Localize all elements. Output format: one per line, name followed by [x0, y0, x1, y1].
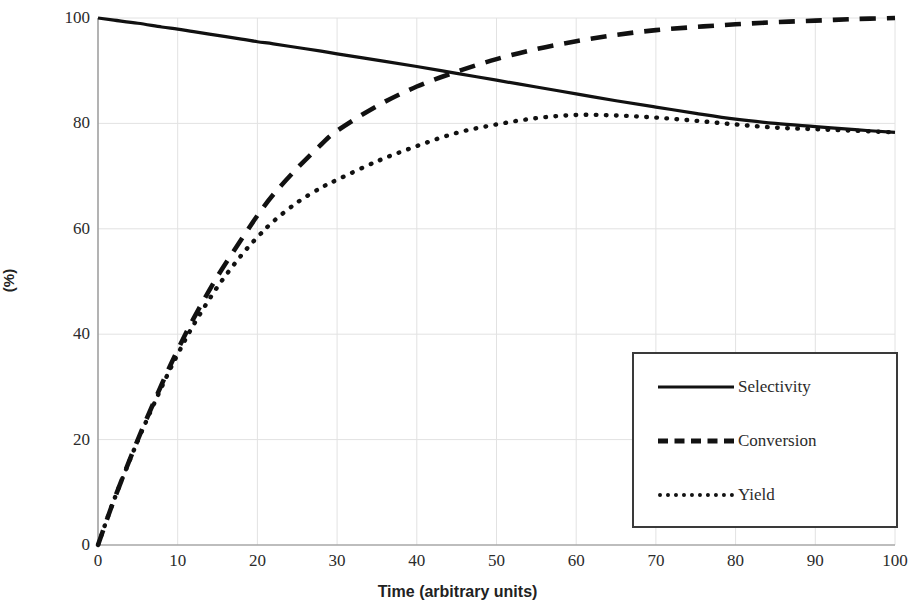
legend-label-selectivity: Selectivity — [738, 377, 811, 397]
legend-item-selectivity[interactable]: Selectivity — [634, 372, 900, 402]
x-tick-label: 40 — [387, 551, 447, 571]
chart-container: 020406080100 0102030405060708090100 (%) … — [0, 0, 915, 608]
x-axis-title: Time (arbitrary units) — [0, 583, 915, 601]
x-tick-label: 10 — [148, 551, 208, 571]
legend-label-conversion: Conversion — [738, 431, 816, 451]
dotted-line-icon — [654, 485, 738, 505]
x-tick-label: 90 — [785, 551, 845, 571]
legend: Selectivity Conversion Yield — [632, 352, 898, 528]
y-tick-label: 20 — [42, 430, 90, 450]
x-tick-label: 20 — [227, 551, 287, 571]
legend-label-yield: Yield — [738, 485, 775, 505]
x-tick-label: 60 — [546, 551, 606, 571]
y-tick-label: 100 — [42, 8, 90, 28]
x-tick-label: 0 — [68, 551, 128, 571]
x-tick-label: 30 — [307, 551, 367, 571]
y-axis-tick-labels: 020406080100 — [34, 0, 90, 608]
legend-item-conversion[interactable]: Conversion — [634, 426, 900, 456]
x-tick-label: 100 — [865, 551, 915, 571]
y-tick-label: 60 — [42, 219, 90, 239]
legend-item-yield[interactable]: Yield — [634, 480, 900, 510]
y-axis-title: (%) — [0, 251, 17, 311]
x-tick-label: 50 — [467, 551, 527, 571]
dashed-line-icon — [654, 431, 738, 451]
x-tick-label: 80 — [706, 551, 766, 571]
y-tick-label: 40 — [42, 324, 90, 344]
y-tick-label: 80 — [42, 113, 90, 133]
x-tick-label: 70 — [626, 551, 686, 571]
solid-line-icon — [654, 377, 738, 397]
